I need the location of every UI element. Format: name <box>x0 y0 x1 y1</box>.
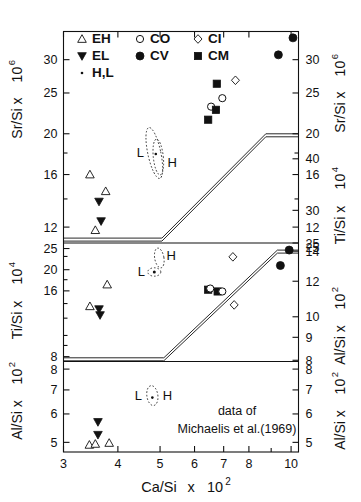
y-tick-label-ti-25: 25 <box>306 241 320 255</box>
marker-filled-triangle-down <box>94 431 103 439</box>
legend-item-EH: EH <box>78 31 111 46</box>
lh-annotation-top-label-high: H <box>168 155 177 170</box>
series-CI <box>229 253 238 310</box>
y-tick-label: 8 <box>51 363 58 377</box>
series-CV <box>274 34 297 59</box>
y-tick-label: 6 <box>306 407 313 421</box>
series-EL <box>95 198 106 225</box>
lh-annotation-middle-ellipse-h <box>153 247 166 268</box>
series-EH <box>85 439 113 449</box>
y-tick-label-al-right: 9 <box>306 331 313 345</box>
legend-item-HL: H,L <box>81 65 114 80</box>
marker-open-triangle-up <box>78 35 87 43</box>
legend-item-EL: EL <box>78 48 110 63</box>
figure-root: 34567810Ca/Six10230252016123025201612252… <box>0 0 361 502</box>
ylabel-right-ti-base: 10 <box>332 174 348 190</box>
lh-annotation-bottom-ellipse <box>146 385 160 406</box>
marker-dot <box>81 72 84 75</box>
lh-annotation-middle-dot <box>153 270 156 273</box>
ylabel-left-al: Al/Si x 102 <box>6 362 25 440</box>
series-EL <box>94 419 103 439</box>
lh-annotation-top-label-low: L <box>137 145 144 160</box>
ylabel-right-al-base: 10 <box>332 379 348 395</box>
lh-annotation-top: LH <box>137 126 177 180</box>
ylabel-left-al-exp: 2 <box>6 362 17 367</box>
ylabel-left-ti-exp: 4 <box>6 262 17 267</box>
ylabel-left-ti-main: Ti/Si x <box>9 301 25 339</box>
y-tick-label: 8 <box>306 363 313 377</box>
y-tick-label: 12 <box>306 221 320 235</box>
ylabel-left-ti-base: 10 <box>9 269 25 285</box>
marker-filled-triangle-down <box>97 218 106 226</box>
y-tick-label-al-right: 12 <box>306 275 320 289</box>
y-tick-label: 7 <box>306 383 313 397</box>
marker-filled-triangle-down <box>95 198 104 206</box>
y-tick-label: 5 <box>51 436 58 450</box>
series-EH <box>86 280 112 309</box>
marker-open-triangle-up <box>101 187 110 195</box>
ylabel-right-sr-exp: 6 <box>329 54 340 59</box>
legend-label-CV: CV <box>150 48 169 63</box>
marker-open-circle <box>207 285 214 292</box>
marker-open-triangle-up <box>103 280 112 288</box>
y-tick-label: 20 <box>44 127 58 141</box>
marker-open-diamond <box>194 35 202 44</box>
marker-open-circle <box>219 95 226 102</box>
legend-item-CO: CO <box>136 31 170 46</box>
series-CV <box>276 246 293 269</box>
y-tick-label-al-right: 10 <box>306 310 320 324</box>
y-tick-label: 5 <box>306 436 313 450</box>
lh-annotation-middle-label-high: H <box>167 248 176 263</box>
y-tick-label: 25 <box>44 86 58 100</box>
x-tick-label: 4 <box>114 457 121 471</box>
lh-annotation-middle-label-low: L <box>138 264 145 279</box>
marker-open-triangle-up <box>105 439 114 447</box>
legend-label-CI: CI <box>208 31 222 46</box>
y-tick-label: 25 <box>44 242 58 256</box>
legend-item-CM: CM <box>194 48 229 63</box>
ylabel-right-al2-exp: 2 <box>329 287 340 292</box>
ylabel-right-ti: Ti/Si x 104 <box>329 167 348 244</box>
ylabel-left-sr-base: 10 <box>9 67 25 83</box>
series-group-panel-2 <box>85 419 113 449</box>
y-tick-label: 6 <box>51 407 58 421</box>
ylabel-right-ti-main: Ti/Si x <box>332 206 348 244</box>
scatter-figure: 34567810Ca/Six10230252016123025201612252… <box>0 0 361 502</box>
y-tick-label-ti-right: 40 <box>306 152 320 166</box>
caption-line-1: data of <box>218 404 257 418</box>
legend-label-EH: EH <box>92 31 111 46</box>
plot-frame <box>64 32 299 453</box>
ylabel-right-sr-main: Sr/Si x <box>332 91 348 132</box>
marker-open-diamond <box>229 253 237 262</box>
x-tick-label: 8 <box>245 457 252 471</box>
y-tick-label: 30 <box>44 53 58 67</box>
marker-open-triangle-up <box>91 226 100 234</box>
marker-filled-circle <box>276 262 284 270</box>
legend-label-CM: CM <box>208 48 229 63</box>
legend-label-CO: CO <box>150 31 170 46</box>
marker-filled-square <box>194 52 201 59</box>
ylabel-right-al2-base: 10 <box>332 294 348 310</box>
x-axis-label: Ca/Si <box>141 479 176 495</box>
marker-open-diamond <box>231 76 239 85</box>
ylabel-right-al: Al/Si x 102 <box>329 372 348 450</box>
ylabel-right-al-main: Al/Si x <box>332 410 348 450</box>
lh-annotation-bottom: LH <box>135 385 172 406</box>
marker-open-triangle-up <box>86 170 95 178</box>
marker-open-triangle-up <box>86 302 95 310</box>
y-tick-label: 30 <box>306 53 320 67</box>
ylabel-right-ti-exp: 4 <box>329 167 340 172</box>
series-CM <box>205 80 221 123</box>
y-tick-label: 12 <box>44 221 58 235</box>
marker-filled-triangle-down <box>78 53 87 61</box>
legend: EHCOCIELCVCMH,L <box>78 31 229 80</box>
ylabel-left-al-main: Al/Si x <box>9 400 25 440</box>
x-axis-label-exp: 2 <box>225 476 231 487</box>
y-tick-label: 16 <box>44 284 58 298</box>
marker-filled-circle <box>289 34 297 42</box>
y-tick-label-ti-right: 30 <box>306 204 320 218</box>
x-axis-label-mult: x <box>187 479 195 495</box>
x-tick-label: 5 <box>157 457 164 471</box>
marker-filled-square <box>212 106 219 113</box>
ylabel-right-sr: Sr/Si x 106 <box>329 54 348 133</box>
